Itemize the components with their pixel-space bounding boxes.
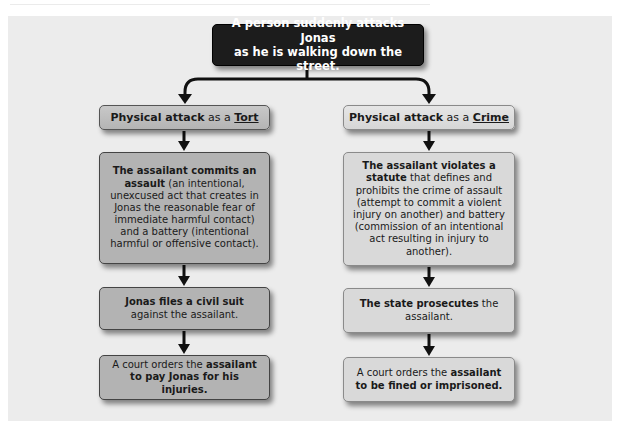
step-plain: A court orders the xyxy=(112,359,206,370)
step-plain: A court orders the xyxy=(357,367,451,378)
cut-off-text-line xyxy=(10,0,430,5)
tort-header-keyword: Tort xyxy=(234,111,258,124)
step-plain: that defines and prohibits the crime of … xyxy=(353,172,505,256)
root-event-box: A person suddenly attacks Jonas as he is… xyxy=(212,24,424,66)
tort-header-box: Physical attack as a Tort xyxy=(99,105,270,130)
tort-step-assault-box: The assailant commits an assault (an int… xyxy=(99,152,270,264)
step-bold: Jonas files a civil suit xyxy=(125,296,244,307)
crime-header-box: Physical attack as a Crime xyxy=(343,105,515,130)
crime-header-bold: Physical attack xyxy=(349,111,443,124)
root-text-line2: as he is walking down the street. xyxy=(234,45,402,73)
step-plain: against the assailant. xyxy=(131,309,238,320)
step-bold: The state prosecutes xyxy=(360,298,479,309)
tort-header-plain: as a xyxy=(205,111,235,124)
crime-header-plain: as a xyxy=(443,111,473,124)
crime-step-court-order-box: A court orders the assailant to be fined… xyxy=(343,357,515,402)
crime-header-keyword: Crime xyxy=(473,111,509,124)
root-text-line1: A person suddenly attacks Jonas xyxy=(232,16,404,44)
tort-step-civil-suit-box: Jonas files a civil suit against the ass… xyxy=(99,287,270,330)
crime-step-prosecution-box: The state prosecutes the assailant. xyxy=(343,288,515,333)
tort-step-court-order-box: A court orders the assailant to pay Jona… xyxy=(99,355,270,400)
tort-header-bold: Physical attack xyxy=(110,111,204,124)
crime-step-statute-box: The assailant violates a statute that de… xyxy=(343,152,515,266)
